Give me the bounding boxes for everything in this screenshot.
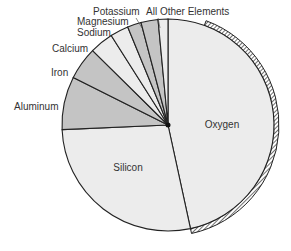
label-aluminum: Aluminum [14, 101, 58, 112]
pie-chart: Oxygen Silicon Aluminum Iron Calcium Sod… [0, 0, 291, 251]
label-oxygen: Oxygen [205, 119, 239, 130]
label-other: All Other Elements [146, 6, 229, 17]
slice-silicon [62, 125, 190, 231]
label-iron: Iron [51, 67, 68, 78]
pie-center [166, 123, 171, 128]
label-calcium: Calcium [52, 43, 88, 54]
label-potassium: Potassium [93, 6, 140, 17]
label-sodium: Sodium [77, 27, 111, 38]
pie-slices [62, 19, 274, 231]
label-magnesium: Magnesium [77, 16, 129, 27]
label-silicon: Silicon [113, 162, 142, 173]
